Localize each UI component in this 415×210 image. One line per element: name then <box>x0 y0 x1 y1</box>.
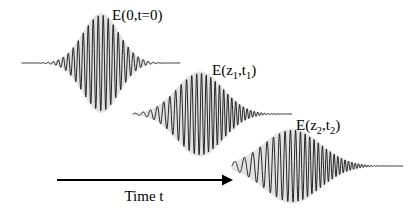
time-axis-label: Time t <box>124 188 164 204</box>
pulse-1-label: E(0,t=0) <box>112 7 163 24</box>
pulse-3-label-main: E(z <box>296 117 317 134</box>
pulse-2-label-tail: ) <box>251 62 256 79</box>
figure-root: Time t E(0,t=0) E(z1,t1) E(z2,t2) <box>0 0 415 210</box>
pulse-2-label-main: E(z <box>212 62 233 79</box>
pulse-3-label-tail: ) <box>335 117 340 134</box>
pulse-propagation-diagram: Time t E(0,t=0) E(z1,t1) E(z2,t2) <box>0 0 415 210</box>
